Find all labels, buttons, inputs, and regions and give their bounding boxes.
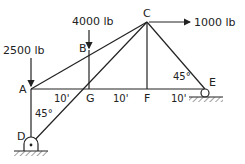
dimension-label-AG: 10' [54,93,69,104]
joint-label-F: F [144,92,150,105]
truss-diagram: 2500 lb 4000 lb 1000 lb A B C D E F G 10… [0,0,245,164]
dimension-label-FE: 10' [171,93,186,104]
roller-support-E [189,89,223,102]
angle-label-D: 45° [35,108,53,119]
load-label-C: 1000 lb [194,16,236,29]
dimension-label-GF: 10' [113,93,128,104]
joint-label-C: C [143,7,151,20]
load-label-A: 2500 lb [3,44,45,57]
joint-label-A: A [19,83,27,96]
joint-label-G: G [86,92,95,105]
truss-members [31,22,205,144]
joint-label-E: E [209,76,216,89]
load-label-B: 4000 lb [72,15,114,28]
joint-label-B: B [79,42,87,55]
loads [31,22,190,86]
angle-label-E: 45° [173,71,191,82]
